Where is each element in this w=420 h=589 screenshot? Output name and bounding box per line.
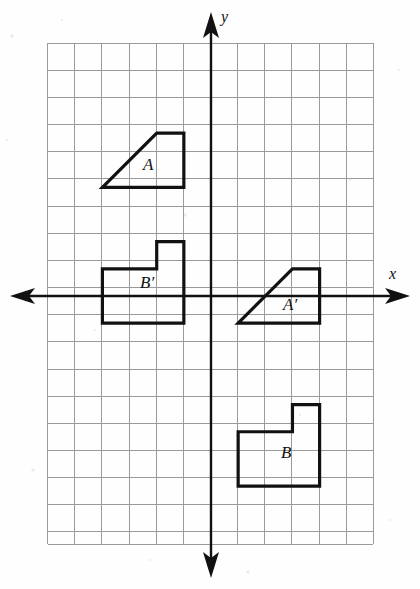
shape-label-b: B [281,443,292,462]
paper-speck [94,329,96,331]
paper-speck [31,468,34,471]
x-axis-label: x [388,265,396,282]
shape-label-a: A [142,155,154,174]
y-axis-label: y [219,8,229,26]
shape-label-b-prime: B′ [140,273,154,292]
paper-speck [398,69,400,71]
paper-speck [389,519,391,521]
paper-speck [183,213,186,216]
paper-speck [149,559,151,561]
paper-speck [10,34,13,37]
coordinate-plane-figure: AA′BB′ x y [0,0,420,589]
paper-speck [61,19,63,21]
shape-label-a-prime: A′ [282,295,297,314]
paper-speck [299,414,301,416]
paper-speck [6,139,8,141]
paper-speck [246,570,249,573]
figure-canvas: AA′BB′ x y [0,0,420,589]
